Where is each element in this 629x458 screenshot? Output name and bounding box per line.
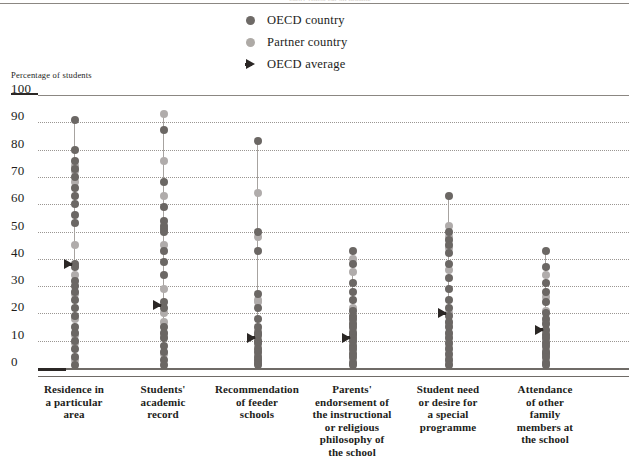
y-tick-label-60: 60 (11, 191, 25, 204)
data-point-oecd (349, 288, 357, 296)
data-point-oecd (160, 334, 168, 342)
data-point-oecd (542, 247, 550, 255)
category-label-line: Student need (398, 383, 498, 396)
data-point-partner (71, 241, 79, 249)
data-point-oecd (254, 247, 262, 255)
data-point-oecd (71, 312, 79, 320)
data-point-oecd (71, 157, 79, 165)
data-point-oecd (349, 279, 357, 287)
data-point-oecd (542, 298, 550, 306)
oecd-average-marker (535, 325, 544, 335)
data-point-oecd (542, 263, 550, 271)
gridline-40 (38, 259, 629, 260)
data-point-oecd (71, 146, 79, 154)
category-label-line: philosophy of (296, 433, 408, 446)
y-tick-label-50: 50 (11, 219, 25, 232)
category-label-5: Student needor desire fora specialprogra… (398, 383, 498, 433)
zero-baseline (38, 368, 629, 370)
y-tick-label-80: 80 (11, 137, 25, 150)
data-point-oecd (445, 285, 453, 293)
category-label-line: programme (398, 421, 498, 434)
category-label-line: area (22, 408, 127, 421)
data-point-oecd (254, 361, 262, 369)
oecd-average-marker (342, 333, 351, 343)
category-label-line: Parents' (296, 383, 408, 396)
data-point-oecd (160, 271, 168, 279)
y-tick-label-10: 10 (11, 328, 25, 341)
data-point-oecd (445, 296, 453, 304)
category-axis-rule (38, 376, 629, 377)
category-label-4: Parents'endorsement ofthe instructionalo… (296, 383, 408, 458)
category-label-2: Students'academicrecord (116, 383, 211, 421)
data-point-oecd (71, 211, 79, 219)
data-point-oecd (542, 279, 550, 287)
category-label-line: a particular (22, 396, 127, 409)
data-point-oecd (349, 260, 357, 268)
data-point-oecd (71, 184, 79, 192)
data-point-oecd (445, 361, 453, 369)
category-label-line: record (116, 408, 211, 421)
y-tick-label-20: 20 (11, 300, 25, 313)
oecd-average-marker (64, 259, 73, 269)
category-label-line: the school (296, 446, 408, 458)
data-point-oecd (254, 137, 262, 145)
data-point-oecd (71, 116, 79, 124)
gridline-10 (38, 341, 629, 342)
gridline-20 (38, 313, 629, 314)
data-point-oecd (254, 304, 262, 312)
data-point-oecd (71, 337, 79, 345)
oecd-average-marker (438, 308, 447, 318)
data-point-partner (160, 192, 168, 200)
data-point-oecd (71, 165, 79, 173)
data-point-oecd (71, 296, 79, 304)
data-point-oecd (71, 304, 79, 312)
category-label-line: the instructional (296, 408, 408, 421)
category-label-line: the school (498, 433, 593, 446)
data-point-oecd (445, 228, 453, 236)
data-point-oecd (71, 329, 79, 337)
data-point-partner (349, 268, 357, 276)
data-point-oecd (71, 219, 79, 227)
data-point-oecd (445, 260, 453, 268)
data-point-partner (160, 157, 168, 165)
y-tick-label-30: 30 (11, 273, 25, 286)
data-point-oecd (71, 361, 79, 369)
category-label-line: of other (498, 396, 593, 409)
data-point-oecd (160, 258, 168, 266)
category-label-6: Attendanceof otherfamilymembers atthe sc… (498, 383, 593, 446)
gridline-50 (38, 232, 629, 233)
data-point-partner (160, 285, 168, 293)
data-point-oecd (445, 241, 453, 249)
data-point-oecd (254, 315, 262, 323)
data-point-oecd (160, 203, 168, 211)
zero-baseline-cap (38, 368, 66, 371)
data-point-partner (542, 271, 550, 279)
data-point-oecd (349, 247, 357, 255)
data-point-oecd (160, 178, 168, 186)
category-label-line: Students' (116, 383, 211, 396)
data-point-oecd (160, 247, 168, 255)
category-label-line: Residence in (22, 383, 127, 396)
gridline-80 (38, 150, 629, 151)
gridline-70 (38, 177, 629, 178)
category-label-line: members at (498, 421, 593, 434)
category-label-line: or desire for (398, 396, 498, 409)
data-point-oecd (254, 290, 262, 298)
category-label-line: academic (116, 396, 211, 409)
gridline-90 (38, 122, 629, 123)
data-point-partner (254, 189, 262, 197)
y-axis-top-underline (11, 93, 38, 95)
y-tick-label-0: 0 (11, 355, 18, 368)
data-point-oecd (71, 200, 79, 208)
data-point-oecd (160, 228, 168, 236)
gridline-100 (38, 95, 629, 96)
data-point-oecd (445, 274, 453, 282)
data-point-oecd (445, 192, 453, 200)
data-point-oecd (160, 126, 168, 134)
data-point-oecd (71, 345, 79, 353)
category-label-line: family (498, 408, 593, 421)
data-point-oecd (542, 361, 550, 369)
data-point-oecd (349, 361, 357, 369)
data-point-oecd (160, 348, 168, 356)
data-point-oecd (71, 288, 79, 296)
